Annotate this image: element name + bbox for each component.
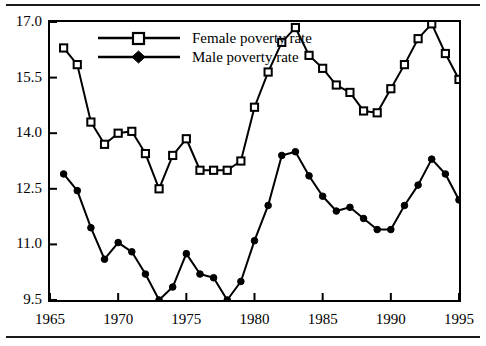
filled-diamond-marker-icon [278,152,285,159]
open-square-marker-icon [428,22,435,27]
filled-diamond-marker-icon [169,284,176,291]
filled-diamond-marker-icon [101,256,108,263]
filled-diamond-marker-icon [88,224,95,231]
open-square-marker-icon [196,167,203,174]
x-tick-label: 1990 [376,312,406,327]
open-square-marker-icon [60,44,67,51]
open-square-marker-icon [224,167,231,174]
filled-diamond-marker-icon [415,182,422,189]
filled-diamond-marker-icon [265,202,272,209]
chart-legend: Female poverty rate Male poverty rate [96,28,306,70]
open-square-marker-icon [346,89,353,96]
filled-diamond-marker-icon [333,208,340,215]
open-square-marker-icon [319,65,326,72]
filled-diamond-marker-icon [210,274,217,281]
series-line [64,152,459,300]
filled-diamond-marker-icon [224,297,231,300]
open-square-marker-icon [142,150,149,157]
filled-diamond-marker-icon [129,249,136,256]
filled-diamond-marker-icon [74,187,81,194]
filled-diamond-marker-icon [60,171,67,178]
filled-diamond-marker-icon [319,193,326,200]
filled-diamond-marker-icon [96,47,182,67]
open-square-marker-icon [251,104,258,111]
x-axis-tick-labels: 1965197019751980198519901995 [0,308,486,332]
open-square-marker-icon [415,35,422,42]
filled-diamond-marker-icon [428,156,435,163]
filled-diamond-marker-icon [306,173,313,180]
x-tick-label: 1965 [35,312,65,327]
open-square-marker-icon [374,109,381,116]
x-tick-label: 1970 [103,312,133,327]
filled-diamond-marker-icon [360,215,367,222]
open-square-marker-icon [115,130,122,137]
open-square-marker-icon [237,157,244,164]
y-tick-label: 15.5 [16,70,42,85]
open-square-marker-icon [128,128,135,135]
filled-diamond-marker-icon [456,197,459,204]
y-tick-label: 17.0 [16,14,42,29]
open-square-marker-icon [210,167,217,174]
open-square-marker-icon [455,76,459,83]
filled-diamond-marker-icon [238,278,245,285]
filled-diamond-marker-icon [251,237,258,244]
open-square-marker-icon [401,61,408,68]
open-square-marker-icon [387,85,394,92]
y-tick-label: 9.5 [23,292,42,307]
y-tick-label: 12.5 [16,181,42,196]
open-square-marker-icon [155,185,162,192]
data-series [60,148,459,300]
filled-diamond-marker-icon [401,202,408,209]
open-square-marker-icon [333,81,340,88]
filled-diamond-marker-icon [442,171,449,178]
x-tick-label: 1995 [444,312,474,327]
y-tick-label: 11.0 [16,236,42,251]
legend-label-female: Female poverty rate [192,30,312,46]
bottom-horizontal-rule [6,336,480,338]
open-square-marker-icon [305,52,312,59]
x-tick-label: 1975 [171,312,201,327]
legend-entry-male: Male poverty rate [96,47,306,67]
open-square-marker-icon [360,107,367,114]
open-square-marker-icon [87,118,94,125]
filled-diamond-marker-icon [374,226,381,233]
open-square-marker-icon [101,141,108,148]
open-square-marker-icon [74,61,81,68]
filled-diamond-marker-icon [183,250,190,257]
x-tick-label: 1980 [240,312,270,327]
x-tick-label: 1985 [308,312,338,327]
open-square-marker-icon [96,28,182,48]
legend-label-male: Male poverty rate [192,49,299,65]
filled-diamond-marker-icon [142,271,149,278]
filled-diamond-marker-icon [115,239,122,246]
open-square-marker-icon [442,50,449,57]
poverty-rate-line-chart: 9.511.012.514.015.517.0 1965197019751980… [0,0,486,346]
legend-entry-female: Female poverty rate [96,28,306,48]
filled-diamond-marker-icon [197,271,204,278]
filled-diamond-marker-icon [347,204,354,211]
open-square-marker-icon [169,152,176,159]
y-tick-label: 14.0 [16,125,42,140]
open-square-marker-icon [183,135,190,142]
filled-diamond-marker-icon [292,148,299,155]
y-axis-tick-labels: 9.511.012.514.015.517.0 [0,0,42,346]
filled-diamond-marker-icon [156,297,163,300]
filled-diamond-marker-icon [388,226,395,233]
top-horizontal-rule [6,4,480,6]
